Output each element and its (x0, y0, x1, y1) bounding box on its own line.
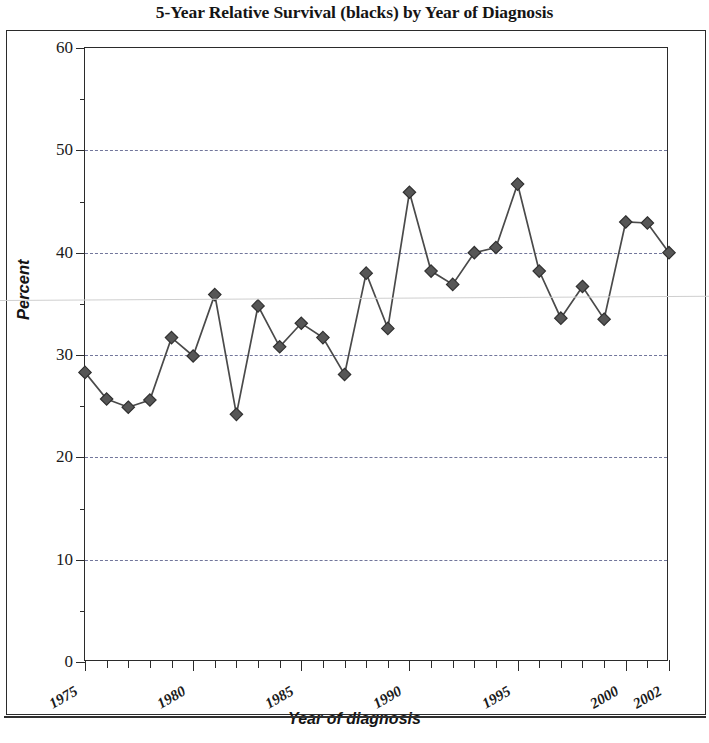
y-tick-40 (76, 253, 85, 254)
data-point-1978 (144, 394, 156, 406)
data-point-1988 (360, 267, 372, 279)
data-point-1998 (576, 280, 588, 292)
y-tick-label-50: 50 (56, 140, 73, 160)
data-point-1991 (425, 265, 437, 277)
data-point-1990 (403, 186, 415, 198)
data-point-1997 (555, 312, 567, 324)
y-tick-label-20: 20 (56, 447, 73, 467)
data-point-1993 (468, 246, 480, 258)
y-tick-10 (76, 560, 85, 561)
data-series-line (85, 48, 669, 662)
y-tick-label-30: 30 (56, 345, 73, 365)
y-axis-title: Percent (14, 259, 33, 320)
data-point-1989 (382, 322, 394, 334)
data-point-1986 (317, 331, 329, 343)
data-point-2000 (620, 216, 632, 228)
data-point-1995 (511, 178, 523, 190)
data-point-1982 (230, 408, 242, 420)
data-point-1987 (338, 368, 350, 380)
data-point-1994 (490, 241, 502, 253)
plot-area: 0102030405060 19751980198519901995200020… (84, 47, 668, 661)
y-tick-50 (76, 150, 85, 151)
y-tick-label-10: 10 (56, 550, 73, 570)
series-polyline (85, 184, 669, 414)
y-tick-60 (76, 48, 85, 49)
y-tick-0 (76, 662, 85, 663)
y-tick-label-0: 0 (65, 652, 74, 672)
data-point-1996 (533, 265, 545, 277)
y-tick-label-60: 60 (56, 38, 73, 58)
data-point-2001 (641, 217, 653, 229)
y-tick-label-40: 40 (56, 243, 73, 263)
data-point-1983 (252, 300, 264, 312)
y-tick-30 (76, 355, 85, 356)
y-tick-20 (76, 457, 85, 458)
x-axis-title: Year of diagnosis (0, 710, 709, 728)
data-point-1999 (598, 313, 610, 325)
figure: 5-Year Relative Survival (blacks) by Yea… (0, 0, 709, 743)
data-point-1992 (447, 278, 459, 290)
data-point-1977 (122, 401, 134, 413)
data-point-1981 (209, 288, 221, 300)
chart-title: 5-Year Relative Survival (blacks) by Yea… (0, 2, 709, 23)
x-tick-2002 (669, 660, 670, 671)
bottom-rule (4, 716, 706, 718)
